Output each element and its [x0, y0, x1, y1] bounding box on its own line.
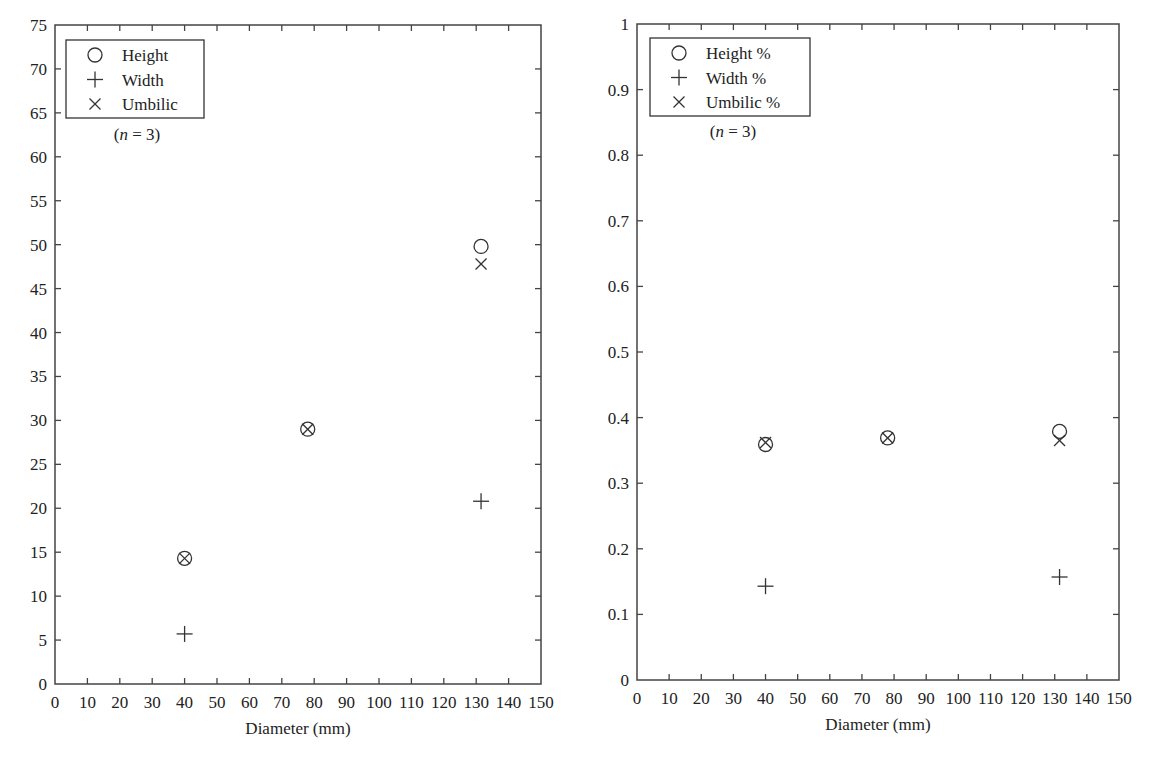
- y-tick-label: 0: [621, 671, 630, 690]
- x-tick-label: 90: [918, 689, 935, 708]
- data-point-plus-icon: [177, 626, 193, 642]
- x-tick-label: 0: [51, 693, 60, 712]
- x-tick-label: 130: [1042, 689, 1068, 708]
- x-tick-label: 80: [886, 689, 903, 708]
- chart-relative-percent: 010203040506070809010011012013014015000.…: [608, 15, 1132, 734]
- legend-label: Umbilic: [122, 95, 178, 114]
- x-tick-label: 90: [338, 693, 355, 712]
- y-tick-label: 55: [30, 192, 47, 211]
- x-tick-label: 0: [633, 689, 642, 708]
- legend-label: Width %: [706, 69, 766, 88]
- data-point-plus-icon: [758, 578, 774, 594]
- x-tick-label: 100: [366, 693, 392, 712]
- y-tick-label: 45: [30, 280, 47, 299]
- y-tick-label: 1: [621, 15, 630, 34]
- data-point-x-icon: [476, 258, 487, 269]
- x-tick-label: 110: [399, 693, 424, 712]
- x-tick-label: 130: [463, 693, 489, 712]
- data-point-x-icon: [760, 437, 771, 448]
- y-tick-label: 5: [39, 631, 48, 650]
- x-tick-label: 70: [273, 693, 290, 712]
- x-tick-label: 100: [946, 689, 972, 708]
- chart-absolute-dimensions: 0102030405060708090100110120130140150051…: [30, 16, 554, 738]
- y-tick-label: 50: [30, 236, 47, 255]
- legend-label: Umbilic %: [706, 93, 780, 112]
- y-tick-label: 75: [30, 16, 47, 35]
- x-tick-label: 150: [1106, 689, 1132, 708]
- y-tick-label: 10: [30, 587, 47, 606]
- x-tick-label: 140: [1074, 689, 1100, 708]
- legend-label: Height: [122, 46, 169, 65]
- sample-size-annotation: (n = 3): [114, 125, 160, 144]
- y-tick-label: 20: [30, 499, 47, 518]
- x-tick-label: 150: [528, 693, 554, 712]
- y-tick-label: 30: [30, 411, 47, 430]
- y-tick-label: 0.8: [608, 146, 629, 165]
- x-tick-label: 10: [661, 689, 678, 708]
- x-tick-label: 120: [1010, 689, 1036, 708]
- y-tick-label: 70: [30, 60, 47, 79]
- y-tick-label: 0.3: [608, 474, 629, 493]
- legend: HeightWidthUmbilic: [66, 40, 204, 118]
- x-tick-label: 80: [306, 693, 323, 712]
- y-tick-label: 0.1: [608, 605, 629, 624]
- y-tick-label: 40: [30, 324, 47, 343]
- x-tick-label: 40: [176, 693, 193, 712]
- x-tick-label: 60: [821, 689, 838, 708]
- sample-size-annotation: (n = 3): [710, 122, 756, 141]
- x-tick-label: 110: [978, 689, 1003, 708]
- x-tick-label: 120: [431, 693, 457, 712]
- data-point-plus-icon: [1052, 569, 1068, 585]
- x-tick-label: 60: [241, 693, 258, 712]
- y-tick-label: 0.2: [608, 540, 629, 559]
- x-tick-label: 30: [144, 693, 161, 712]
- x-tick-label: 50: [789, 689, 806, 708]
- x-tick-label: 140: [496, 693, 522, 712]
- data-point-x-icon: [179, 553, 190, 564]
- x-axis-title: Diameter (mm): [245, 719, 350, 738]
- data-point-plus-icon: [473, 493, 489, 509]
- data-point-x-icon: [302, 424, 313, 435]
- y-tick-label: 0.7: [608, 212, 630, 231]
- data-point-circle-icon: [474, 239, 488, 253]
- x-tick-label: 20: [693, 689, 710, 708]
- y-tick-label: 35: [30, 367, 47, 386]
- y-tick-label: 60: [30, 148, 47, 167]
- y-tick-label: 65: [30, 104, 47, 123]
- legend-label: Height %: [706, 44, 771, 63]
- x-tick-label: 10: [79, 693, 96, 712]
- y-tick-label: 0: [39, 675, 48, 694]
- y-tick-label: 0.5: [608, 343, 629, 362]
- plot-frame: [55, 25, 541, 684]
- x-tick-label: 40: [757, 689, 774, 708]
- y-tick-label: 0.6: [608, 277, 629, 296]
- figure-canvas: 0102030405060708090100110120130140150051…: [0, 0, 1151, 758]
- data-point-x-icon: [1054, 435, 1065, 446]
- y-tick-label: 0.4: [608, 409, 630, 428]
- x-tick-label: 50: [209, 693, 226, 712]
- data-point-circle-icon: [759, 437, 773, 451]
- x-axis-title: Diameter (mm): [825, 715, 930, 734]
- x-tick-label: 30: [725, 689, 742, 708]
- y-tick-label: 15: [30, 543, 47, 562]
- y-tick-label: 0.9: [608, 81, 629, 100]
- legend: Height %Width %Umbilic %: [650, 38, 810, 116]
- y-tick-label: 25: [30, 455, 47, 474]
- x-tick-label: 20: [111, 693, 128, 712]
- legend-label: Width: [122, 71, 164, 90]
- data-point-x-icon: [882, 432, 893, 443]
- x-tick-label: 70: [853, 689, 870, 708]
